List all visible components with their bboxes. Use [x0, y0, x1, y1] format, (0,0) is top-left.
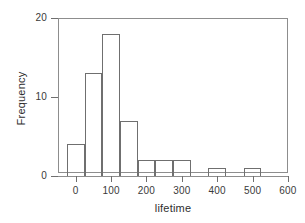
x-axis-tick	[146, 176, 147, 182]
x-axis-tick-label: 0	[56, 186, 96, 196]
y-axis-tick-label: 10	[5, 92, 47, 102]
histogram-bar	[120, 121, 138, 176]
histogram-bar	[244, 168, 262, 176]
x-axis-tick	[288, 176, 289, 182]
x-axis-tick	[253, 176, 254, 182]
y-axis-line	[58, 18, 59, 173]
x-axis-tick-label: 300	[162, 186, 202, 196]
x-axis-tick-label: 200	[126, 186, 166, 196]
histogram-chart: 01020 Frequency 0100200300400500600 life…	[0, 0, 305, 223]
y-axis-tick-label: 0	[5, 171, 47, 181]
x-axis-tick	[182, 176, 183, 182]
y-axis-tick	[51, 18, 58, 19]
y-axis-tick	[51, 176, 58, 177]
bars-layer	[58, 18, 288, 176]
x-axis-tick	[76, 176, 77, 182]
histogram-bar	[138, 160, 156, 176]
histogram-bar	[102, 34, 120, 176]
histogram-bar	[85, 73, 103, 176]
x-axis-title: lifetime	[58, 203, 288, 214]
histogram-bar	[67, 144, 85, 176]
histogram-bar	[208, 168, 226, 176]
histogram-bar	[155, 160, 173, 176]
x-axis-tick-label: 400	[197, 186, 237, 196]
y-axis-tick	[51, 97, 58, 98]
y-axis-tick-label: 20	[5, 13, 47, 23]
x-axis-tick-label: 600	[268, 186, 305, 196]
x-axis-tick	[111, 176, 112, 182]
x-axis-tick-label: 500	[233, 186, 273, 196]
x-axis-tick-label: 100	[91, 186, 131, 196]
histogram-bar	[173, 160, 191, 176]
x-axis-tick	[217, 176, 218, 182]
